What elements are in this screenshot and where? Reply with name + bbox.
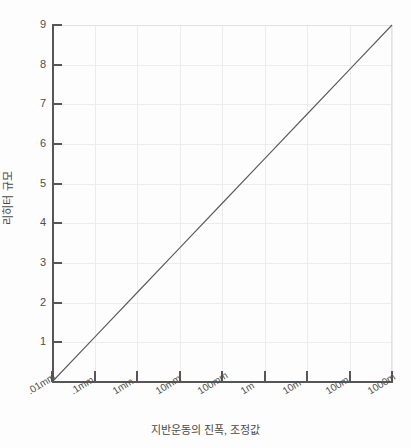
y-axis-tick [54, 262, 62, 264]
richter-magnitude-chart: 123456789 .01mm.1mm1mm10mm100mm1m10m100m… [0, 0, 411, 448]
gridline-horizontal [52, 263, 392, 264]
plot-area [52, 25, 392, 382]
gridline-horizontal [52, 303, 392, 304]
y-axis-tick-label: 9 [6, 19, 46, 30]
x-axis-tick [136, 371, 138, 382]
x-axis-tick [264, 371, 266, 382]
y-axis-tick [54, 341, 62, 343]
gridline-vertical [137, 25, 138, 382]
gridline-vertical [180, 25, 181, 382]
y-axis-title: 리히터 규모 [0, 158, 15, 238]
y-axis-line [52, 24, 54, 383]
gridline-vertical [350, 25, 351, 382]
plot-right-border [391, 25, 392, 382]
gridline-vertical [307, 25, 308, 382]
y-axis-tick [54, 183, 62, 185]
gridline-vertical [222, 25, 223, 382]
gridline-horizontal [52, 184, 392, 185]
plot-top-border [52, 25, 392, 26]
y-axis-tick [54, 143, 62, 145]
y-axis-tick [54, 64, 62, 66]
y-axis-tick-label: 1 [6, 336, 46, 347]
gridline-vertical [265, 25, 266, 382]
y-axis-tick-label: 7 [6, 98, 46, 109]
y-axis-tick-label: 8 [6, 59, 46, 70]
x-axis-title: 지반운동의 진폭, 조정값 [0, 421, 411, 437]
gridline-horizontal [52, 223, 392, 224]
gridline-horizontal [52, 144, 392, 145]
y-axis-tick-label: 2 [6, 297, 46, 308]
y-axis-tick [54, 103, 62, 105]
y-axis-tick-label: 6 [6, 138, 46, 149]
x-axis-tick [306, 371, 308, 382]
x-axis-tick-label: 1m [239, 381, 256, 397]
gridline-vertical [95, 25, 96, 382]
gridline-horizontal [52, 104, 392, 105]
gridline-horizontal [52, 65, 392, 66]
gridline-horizontal [52, 342, 392, 343]
y-axis-tick [54, 302, 62, 304]
y-axis-tick [54, 24, 62, 26]
y-axis-tick [54, 222, 62, 224]
y-axis-tick-label: 3 [6, 257, 46, 268]
gridline-vertical [392, 25, 393, 382]
